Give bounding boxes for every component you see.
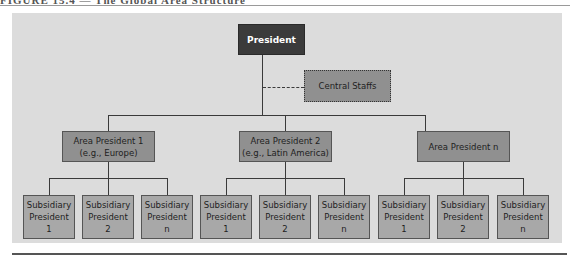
sub-line2: President [29,211,69,223]
sub-line2: President [324,211,364,223]
sub-line1: Subsidiary [204,199,248,211]
subsidiary-box: Subsidiary President 2 [82,195,134,239]
sub-line3: 1 [401,223,406,235]
subsidiary-box: Subsidiary President n [141,195,193,239]
sub-line1: Subsidiary [86,199,130,211]
connector-president-down [262,55,263,115]
sub-line1: Subsidiary [27,199,71,211]
area-president-1-box: Area President 1 (e.g., Europe) [62,131,155,162]
sub-line2: President [503,211,543,223]
sub-line1: Subsidiary [441,199,485,211]
connector-sub-7 [404,178,405,195]
sub-line2: President [147,211,187,223]
area-example: (e.g., Latin America) [242,147,329,159]
connector-area2 [285,115,286,131]
area-label: Area President 2 [250,135,320,147]
subsidiary-box: Subsidiary President 1 [200,195,252,239]
connector-area-bus [108,115,426,116]
area-label: Area President 1 [73,135,143,147]
sub-line1: Subsidiary [382,199,426,211]
sub-line3: 2 [460,223,465,235]
figure-caption: FIGURE 15.4 — The Global Area Structure [0,0,300,4]
connector-area1 [108,115,109,131]
sub-line3: 2 [282,223,287,235]
sub-line3: n [341,223,346,235]
sub-line2: President [443,211,483,223]
central-staffs-box: Central Staffs [304,70,391,102]
president-box: President [238,24,305,55]
connector-sub-9 [523,178,524,195]
area-president-n-box: Area President n [417,131,510,162]
connector-sub-4 [226,178,227,195]
subsidiary-box: Subsidiary President n [497,195,549,239]
sub-line2: President [206,211,246,223]
sub-line1: Subsidiary [501,199,545,211]
sub-line1: Subsidiary [322,199,366,211]
subsidiary-box: Subsidiary President 2 [437,195,489,239]
sub-line3: 1 [46,223,51,235]
subsidiary-box: Subsidiary President 1 [23,195,75,239]
area-example: (e.g., Europe) [80,147,138,159]
connector-arean [425,115,426,131]
connector-sub-1 [49,178,50,195]
area-president-2-box: Area President 2 (e.g., Latin America) [239,131,332,162]
caption-rule [0,5,570,6]
sub-line1: Subsidiary [263,199,307,211]
sub-line3: n [520,223,525,235]
sub-line3: 2 [105,223,110,235]
sub-line1: Subsidiary [145,199,189,211]
sub-line3: n [164,223,169,235]
bottom-rule [12,253,567,255]
connector-sub-bus-1 [49,178,167,179]
connector-sub-3 [167,178,168,195]
sub-line2: President [384,211,424,223]
connector-sub-bus-2 [226,178,344,179]
connector-central-staffs [263,87,304,88]
central-staffs-label: Central Staffs [319,80,377,92]
subsidiary-box: Subsidiary President n [318,195,370,239]
sub-line2: President [265,211,305,223]
sub-line3: 1 [223,223,228,235]
subsidiary-box: Subsidiary President 2 [259,195,311,239]
connector-sub-bus-3 [404,178,523,179]
subsidiary-box: Subsidiary President 1 [378,195,430,239]
connector-sub-6 [344,178,345,195]
area-label: Area President n [428,141,498,153]
sub-line2: President [88,211,128,223]
president-label: President [247,34,296,46]
